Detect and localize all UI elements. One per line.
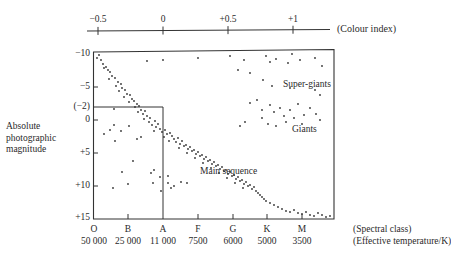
star-point	[279, 107, 281, 109]
star-point	[283, 115, 285, 117]
star-point	[151, 124, 153, 126]
y-axis-label-line-2: photographic	[6, 133, 56, 145]
x-axis-ticks	[128, 214, 302, 219]
star-point	[180, 181, 182, 183]
super-giants-label: Super-giants	[283, 79, 331, 89]
star-point	[256, 99, 258, 101]
star-point	[237, 69, 239, 71]
star-point	[285, 210, 287, 212]
star-point	[161, 131, 163, 133]
star-point	[197, 57, 199, 59]
y-axis-tick-label: −10	[0, 48, 90, 58]
star-point	[102, 63, 104, 65]
temperature-tick-label: 5000	[258, 236, 277, 246]
star-point	[207, 160, 209, 162]
star-point	[160, 190, 162, 192]
star-point	[123, 96, 125, 98]
star-point	[234, 182, 236, 184]
plot-frame	[94, 50, 335, 220]
star-point	[309, 107, 311, 109]
colour-index-tick-label: +0.5	[219, 14, 236, 24]
star-point	[285, 121, 287, 123]
star-point	[229, 55, 231, 57]
star-point	[128, 125, 130, 127]
star-point	[167, 182, 169, 184]
colour-index-label: (Colour index)	[337, 24, 396, 34]
star-point	[329, 215, 331, 217]
star-point	[127, 183, 129, 185]
colour-index-axis-line	[87, 30, 330, 32]
temperature-tick-label: 6000	[224, 236, 243, 246]
star-point	[265, 55, 267, 57]
star-point	[291, 53, 293, 55]
spectral-class-tick-label: F	[195, 224, 200, 234]
star-point	[175, 141, 177, 143]
spectral-class-tick-label: G	[230, 224, 237, 234]
star-point	[314, 57, 316, 59]
star-point	[303, 114, 305, 116]
star-point	[289, 211, 291, 213]
star-point	[154, 120, 156, 122]
temperature-tick-label: 25 000	[115, 236, 141, 246]
star-point	[136, 103, 138, 105]
star-point	[114, 77, 116, 79]
star-point	[120, 83, 122, 85]
star-point	[185, 144, 187, 146]
star-point	[315, 113, 317, 115]
star-point	[297, 212, 299, 214]
effective-temperature-label: (Effective temperature/K)	[353, 236, 451, 246]
star-point	[275, 58, 277, 60]
star-point	[152, 182, 154, 184]
star-point	[237, 176, 239, 178]
star-point	[277, 206, 279, 208]
star-point	[168, 140, 170, 142]
temperature-tick-label: 50 000	[81, 236, 107, 246]
star-point	[129, 94, 131, 96]
star-point	[140, 136, 142, 138]
star-point	[197, 151, 199, 153]
colour-index-tick-label: +1	[288, 14, 298, 24]
star-point	[269, 61, 271, 63]
star-point	[178, 147, 180, 149]
star-point	[118, 90, 120, 92]
star-point	[96, 57, 98, 59]
star-point	[309, 214, 311, 216]
star-point	[257, 192, 259, 194]
spectral-class-tick-label: M	[298, 224, 306, 234]
star-point	[103, 67, 105, 69]
star-point	[171, 135, 173, 137]
star-point	[140, 109, 142, 111]
y-axis-tick-label: 0	[0, 114, 90, 124]
star-point	[317, 212, 319, 214]
star-point	[186, 182, 188, 184]
star-point	[251, 188, 253, 190]
star-point	[191, 150, 193, 152]
star-point	[239, 125, 241, 127]
star-point	[226, 177, 228, 179]
colour-index-tick-label: −0.5	[89, 14, 106, 24]
y-axis-tick-label: +10	[0, 180, 90, 190]
star-point	[167, 175, 169, 177]
star-point	[98, 54, 100, 56]
star-point	[169, 132, 171, 134]
star-point	[107, 69, 109, 71]
star-point	[153, 130, 155, 132]
star-point	[203, 158, 205, 160]
star-point	[121, 171, 123, 173]
spectral-class-tick-label: A	[160, 224, 167, 234]
star-point	[136, 138, 138, 140]
star-point	[114, 140, 116, 142]
spectral-class-tick-label: B	[125, 224, 131, 234]
star-point	[249, 72, 251, 74]
star-point	[321, 65, 323, 67]
star-point	[269, 202, 271, 204]
star-point	[249, 102, 251, 104]
star-point	[108, 78, 110, 80]
giants-label: Giants	[292, 124, 317, 134]
spectral-class-tick-label: O	[91, 224, 98, 234]
star-point	[173, 138, 175, 140]
star-point	[211, 163, 213, 165]
star-point	[162, 59, 164, 61]
star-point	[124, 89, 126, 91]
star-point	[265, 200, 267, 202]
